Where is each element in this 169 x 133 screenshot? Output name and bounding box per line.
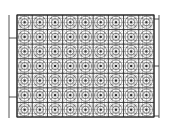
- rosette-center: [85, 109, 87, 111]
- rosette-center: [100, 109, 102, 111]
- rosette-center: [100, 21, 102, 23]
- rosette-center: [39, 36, 41, 38]
- pattern-diagram: [0, 0, 169, 133]
- rosette-center: [39, 21, 41, 23]
- rosette-center: [39, 65, 41, 67]
- rosette-center: [130, 109, 132, 111]
- rosette-center: [54, 21, 56, 23]
- rosette-center: [54, 109, 56, 111]
- rosette-center: [130, 21, 132, 23]
- rosette-center: [54, 36, 56, 38]
- rosette-center: [100, 94, 102, 96]
- rosette-center: [69, 65, 71, 67]
- rosette-center: [130, 80, 132, 82]
- rosette-center: [115, 50, 117, 52]
- rosette-center: [69, 36, 71, 38]
- rosette-center: [145, 21, 147, 23]
- rosette-center: [69, 109, 71, 111]
- rosette-center: [85, 65, 87, 67]
- rosette-center: [24, 109, 26, 111]
- rosette-center: [130, 94, 132, 96]
- rosette-center: [85, 80, 87, 82]
- rosette-center: [100, 36, 102, 38]
- rosette-center: [54, 50, 56, 52]
- rosette-center: [115, 94, 117, 96]
- rosette-center: [69, 50, 71, 52]
- rosette-center: [85, 21, 87, 23]
- rosette-center: [85, 50, 87, 52]
- rosette-center: [145, 80, 147, 82]
- rosette-center: [69, 94, 71, 96]
- rosette-center: [100, 50, 102, 52]
- rosette-center: [115, 21, 117, 23]
- rosette-center: [39, 109, 41, 111]
- rosette-center: [115, 65, 117, 67]
- rosette-center: [24, 65, 26, 67]
- rosette-center: [115, 36, 117, 38]
- rosette-center: [54, 94, 56, 96]
- rosette-center: [24, 80, 26, 82]
- rosette-center: [69, 21, 71, 23]
- rosette-center: [145, 94, 147, 96]
- rosette-center: [54, 65, 56, 67]
- rosette-center: [100, 80, 102, 82]
- rosette-center: [130, 50, 132, 52]
- rosette-center: [24, 36, 26, 38]
- rosette-center: [145, 36, 147, 38]
- rosette-center: [39, 94, 41, 96]
- rosette-center: [85, 36, 87, 38]
- rosette-center: [85, 94, 87, 96]
- rosette-center: [145, 65, 147, 67]
- rosette-center: [100, 65, 102, 67]
- tiled-rosette-grid: [0, 0, 169, 133]
- rosette-center: [24, 50, 26, 52]
- rosette-center: [115, 109, 117, 111]
- rosette-center: [130, 36, 132, 38]
- rosette-center: [145, 109, 147, 111]
- rosette-center: [115, 80, 117, 82]
- rosette-center: [24, 21, 26, 23]
- rosette-center: [39, 50, 41, 52]
- rosette-center: [69, 80, 71, 82]
- rosette-center: [130, 65, 132, 67]
- rosette-center: [24, 94, 26, 96]
- rosette-center: [54, 80, 56, 82]
- rosette-center: [39, 80, 41, 82]
- rosette-center: [145, 50, 147, 52]
